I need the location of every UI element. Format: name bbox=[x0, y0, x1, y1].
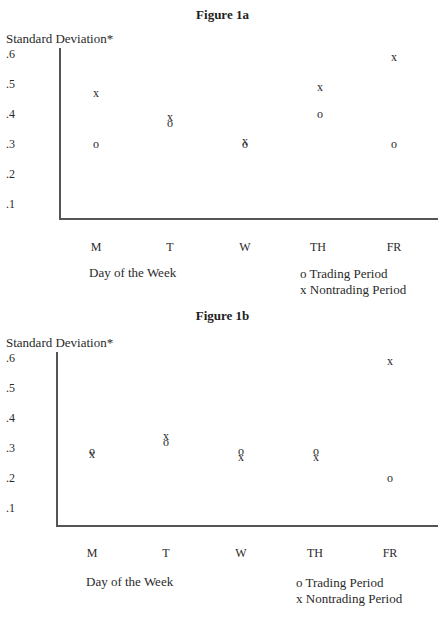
x-tick: T bbox=[162, 546, 169, 561]
y-tick: .1 bbox=[6, 502, 15, 514]
y-tick: .4 bbox=[6, 412, 15, 424]
trading-point-marker: o bbox=[384, 472, 396, 484]
nontrading-point-marker: x bbox=[235, 451, 247, 463]
x-axis bbox=[56, 525, 438, 527]
y-tick: .3 bbox=[6, 442, 15, 454]
legend-item-trading: o Trading Period bbox=[296, 575, 402, 591]
legend-item-nontrading: x Nontrading Period bbox=[296, 591, 402, 607]
x-tick: M bbox=[87, 546, 98, 561]
figure-1b: Figure 1b Standard Deviation* .6 .5 .4 .… bbox=[0, 0, 445, 622]
x-tick: W bbox=[235, 546, 246, 561]
x-tick: FR bbox=[383, 546, 398, 561]
nontrading-point-marker: x bbox=[86, 448, 98, 460]
y-tick: .5 bbox=[6, 382, 15, 394]
y-tick: .2 bbox=[6, 472, 15, 484]
nontrading-point-marker: x bbox=[310, 451, 322, 463]
legend: o Trading Period x Nontrading Period bbox=[296, 575, 402, 607]
nontrading-point-marker: x bbox=[384, 355, 396, 367]
y-tick: .6 bbox=[6, 352, 15, 364]
nontrading-point-marker: x bbox=[160, 430, 172, 442]
y-axis bbox=[56, 352, 58, 526]
x-axis-label: Day of the Week bbox=[86, 574, 173, 590]
figure-title: Figure 1b bbox=[0, 308, 445, 324]
y-axis-label: Standard Deviation* bbox=[6, 335, 113, 351]
x-tick: TH bbox=[307, 546, 323, 561]
